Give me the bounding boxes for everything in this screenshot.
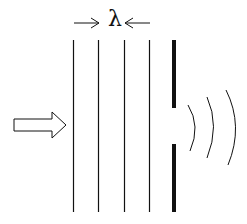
- diffraction-diagram: [0, 0, 247, 224]
- barrier-bottom: [172, 144, 176, 212]
- diffracted-waves: [188, 90, 236, 165]
- diffracted-wave-3: [226, 90, 236, 165]
- incident-arrow-icon: [14, 112, 66, 138]
- wavelength-label: λ: [105, 8, 125, 30]
- plane-wavefronts: [74, 40, 150, 212]
- barrier-top: [172, 40, 176, 108]
- slit-barrier: [172, 40, 176, 212]
- diffracted-wave-1: [188, 105, 195, 151]
- diffracted-wave-2: [207, 97, 214, 158]
